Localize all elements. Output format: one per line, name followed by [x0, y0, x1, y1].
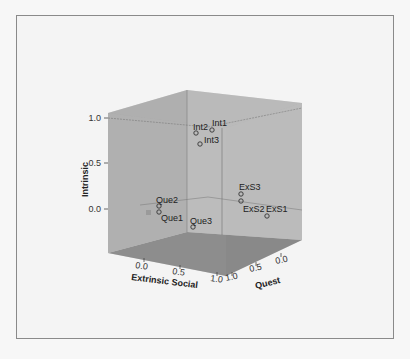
z-tick-0: 0.0: [88, 204, 101, 214]
y-tick-0: 0.0: [274, 254, 288, 266]
z-axis-label: Intrinsic: [80, 162, 90, 197]
label-que2: Que2: [156, 195, 178, 205]
z-tick-1: 1.0: [88, 113, 101, 123]
gray-marker: [146, 210, 151, 215]
z-tick-0-5: 0.5: [88, 158, 101, 168]
x-tick-1: 1.0: [210, 273, 224, 285]
label-int1: Int1: [212, 118, 227, 128]
label-exs2: ExS2: [243, 204, 265, 214]
z-axis: 1.0 0.5 0.0 Intrinsic: [80, 113, 108, 214]
front-right-face: [226, 103, 302, 276]
label-int3: Int3: [204, 135, 219, 145]
x-tick-0-5: 0.5: [172, 266, 186, 278]
x-tick-0: 0.0: [135, 260, 149, 272]
y-axis-label: Quest: [254, 275, 281, 291]
label-que3: Que3: [190, 216, 212, 226]
label-que1: Que1: [161, 213, 183, 223]
label-exs1: ExS1: [266, 204, 288, 214]
x-axis-label: Extrinsic Social: [131, 272, 199, 290]
label-int2: Int2: [193, 122, 208, 132]
y-tick-0-5: 0.5: [248, 262, 262, 274]
label-exs3: ExS3: [239, 182, 261, 192]
scatter-3d-plot: 1.0 0.5 0.0 Intrinsic 0.0 0.5 1.0 Extrin…: [0, 0, 410, 359]
y-tick-1: 1.0: [224, 271, 238, 283]
